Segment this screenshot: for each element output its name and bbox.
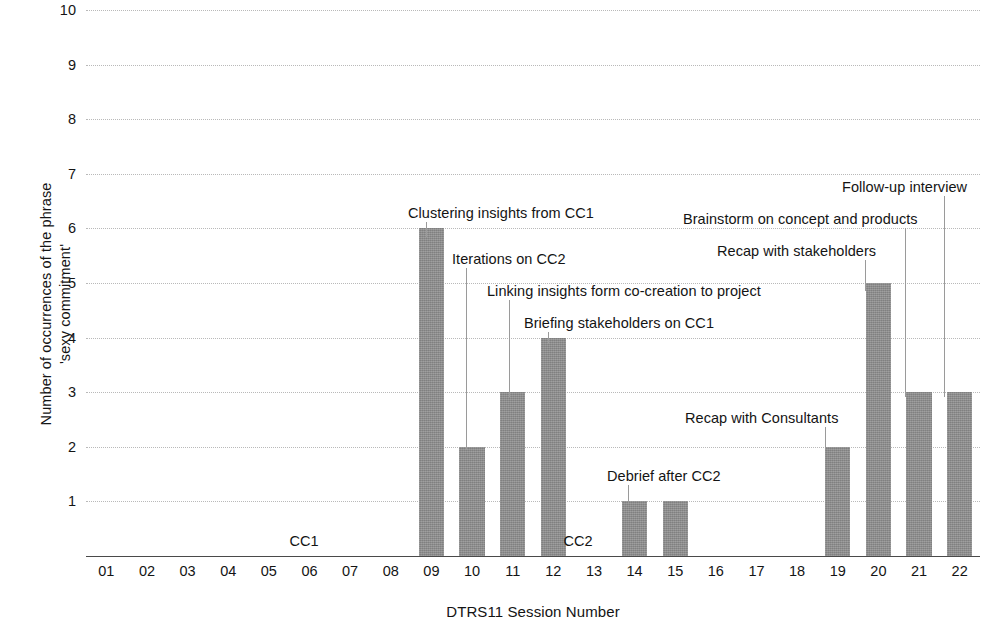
x-axis-tick-label: 07 — [342, 563, 358, 579]
x-axis-tick-label: 16 — [708, 563, 724, 579]
gridline — [86, 338, 980, 339]
gridline — [86, 228, 980, 229]
x-axis-tick-label: 09 — [423, 563, 439, 579]
gridline — [86, 392, 980, 393]
x-axis-tick-label: 04 — [220, 563, 236, 579]
annotation-label: Clustering insights from CC1 — [408, 205, 594, 222]
x-axis-tick-label: 01 — [98, 563, 114, 579]
annotation-leader-line — [825, 427, 826, 450]
annotation-label: Recap with Consultants — [685, 410, 838, 427]
x-axis-tick-label: 03 — [180, 563, 196, 579]
y-axis-tick-label: 6 — [42, 220, 76, 236]
x-axis-title: DTRS11 Session Number — [86, 603, 980, 620]
annotation-label: Brainstorm on concept and products — [683, 211, 918, 228]
annotation-label: Linking insights form co-creation to pro… — [487, 283, 761, 300]
annotation-leader-line — [548, 332, 549, 344]
x-axis-tick-label: 12 — [545, 563, 561, 579]
x-axis-tick-label: 13 — [586, 563, 602, 579]
bar — [866, 283, 891, 556]
annotation-leader-line — [509, 300, 510, 397]
annotation-leader-line — [628, 485, 629, 503]
annotation-leader-line — [865, 260, 866, 291]
phase-marker-cc2: CC2 — [563, 533, 592, 549]
x-axis-tick-label: 18 — [789, 563, 805, 579]
bar — [663, 501, 688, 556]
y-axis-tick-label: 1 — [42, 493, 76, 509]
x-axis-tick-label: 06 — [301, 563, 317, 579]
y-axis-tick-label: 9 — [42, 57, 76, 73]
y-axis-tick-label: 8 — [42, 111, 76, 127]
annotation-label: Recap with stakeholders — [717, 243, 876, 260]
x-axis-tick-label: 17 — [748, 563, 764, 579]
x-axis-tick-label: 22 — [952, 563, 968, 579]
bar — [622, 501, 647, 556]
x-axis-tick-label: 02 — [139, 563, 155, 579]
y-axis-tick-label: 7 — [42, 166, 76, 182]
y-axis-tick-label: 3 — [42, 384, 76, 400]
phase-marker-cc1: CC1 — [289, 533, 318, 549]
bar — [541, 338, 566, 556]
annotation-label: Briefing stakeholders on CC1 — [524, 315, 714, 332]
x-axis-tick-label: 15 — [667, 563, 683, 579]
gridline — [86, 10, 980, 11]
y-axis-tick-label: 2 — [42, 439, 76, 455]
bar — [906, 392, 931, 556]
y-axis-tick-label: 10 — [42, 2, 76, 18]
bar — [947, 392, 972, 556]
bar — [500, 392, 525, 556]
gridline — [86, 65, 980, 66]
x-axis-tick-label: 05 — [261, 563, 277, 579]
annotation-label: Iterations on CC2 — [452, 251, 566, 268]
annotation-label: Debrief after CC2 — [607, 468, 721, 485]
bar-chart: Number of occurrences of the phrase 'sex… — [0, 0, 997, 644]
x-axis-tick-label: 19 — [830, 563, 846, 579]
x-axis-tick-label: 21 — [911, 563, 927, 579]
x-axis-tick-label: 11 — [505, 563, 520, 579]
annotation-label: Follow-up interview — [842, 179, 967, 196]
x-axis-tick-label: 08 — [383, 563, 399, 579]
y-axis-tick-label: 5 — [42, 275, 76, 291]
bar — [825, 447, 850, 556]
y-axis-tick-label: 4 — [42, 330, 76, 346]
x-axis-tick-label: 20 — [870, 563, 886, 579]
gridline — [86, 174, 980, 175]
plot-area: Clustering insights from CC1Iterations o… — [86, 10, 980, 556]
annotation-leader-line — [944, 196, 945, 397]
x-axis-tick-label: 10 — [464, 563, 480, 579]
gridline — [86, 119, 980, 120]
annotation-leader-line — [426, 222, 427, 237]
y-axis-tick-labels: 12345678910 — [38, 0, 76, 644]
x-axis-tick-labels: 0102030405060708091011121314151617181920… — [86, 563, 980, 589]
bar — [459, 447, 484, 556]
annotation-leader-line — [905, 228, 906, 397]
x-axis-baseline — [86, 556, 980, 557]
x-axis-tick-label: 14 — [627, 563, 643, 579]
bar — [419, 228, 444, 556]
annotation-leader-line — [466, 268, 467, 450]
